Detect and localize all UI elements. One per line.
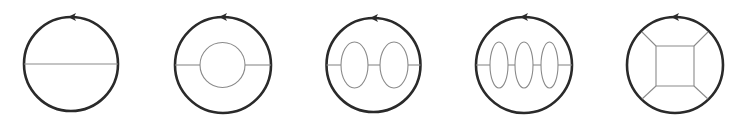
loop-diagram-figure [0, 0, 752, 126]
diagram-panel-5 [627, 13, 723, 113]
diagram-panel-3 [327, 14, 421, 112]
diagram-panel-1 [24, 13, 118, 111]
spoke-line [694, 86, 708, 99]
inner-loop-ellipse [341, 42, 368, 88]
inner-square [656, 46, 694, 86]
spoke-line [642, 32, 656, 46]
inner-loop-ellipse [200, 43, 245, 88]
diagram-panel-2 [175, 13, 271, 113]
inner-loop-ellipse [541, 42, 558, 88]
spoke-line [694, 32, 708, 46]
diagram-panels [24, 13, 723, 113]
spoke-line [642, 86, 656, 99]
diagram-panel-4 [476, 13, 572, 113]
inner-loop-ellipse [490, 42, 508, 88]
inner-loop-ellipse [515, 42, 533, 88]
outer-loop-circle [627, 17, 723, 113]
inner-loop-ellipse [380, 42, 408, 88]
